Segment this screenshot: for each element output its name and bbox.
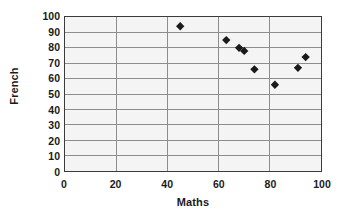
y-tick-label: 20 bbox=[26, 136, 60, 147]
x-tick-label: 60 bbox=[199, 179, 239, 190]
x-axis-title: Maths bbox=[64, 196, 322, 208]
y-tick-label: 70 bbox=[26, 58, 60, 69]
scatter-chart: French 0102030405060708090100 0204060801… bbox=[0, 0, 345, 220]
y-tick-label: 50 bbox=[26, 89, 60, 100]
y-tick-label: 100 bbox=[26, 11, 60, 22]
y-tick-label: 0 bbox=[26, 167, 60, 178]
y-tick-label: 80 bbox=[26, 42, 60, 53]
y-tick-label: 10 bbox=[26, 151, 60, 162]
x-axis-tick-labels: 020406080100 bbox=[64, 179, 322, 195]
x-tick-label: 80 bbox=[250, 179, 290, 190]
y-tick-label: 60 bbox=[26, 73, 60, 84]
y-axis-title-label: French bbox=[8, 67, 20, 104]
plot-area bbox=[64, 16, 322, 172]
x-tick-label: 20 bbox=[96, 179, 136, 190]
plot-inner bbox=[65, 17, 321, 171]
data-point bbox=[222, 36, 230, 44]
x-tick-label: 0 bbox=[44, 179, 84, 190]
y-tick-label: 40 bbox=[26, 104, 60, 115]
data-point bbox=[301, 53, 309, 61]
data-point bbox=[176, 22, 184, 30]
data-point bbox=[271, 81, 279, 89]
gridlines bbox=[65, 17, 321, 171]
data-point bbox=[250, 65, 258, 73]
y-tick-label: 30 bbox=[26, 120, 60, 131]
y-tick-label: 90 bbox=[26, 26, 60, 37]
x-tick-label: 100 bbox=[302, 179, 342, 190]
y-axis-title: French bbox=[2, 0, 26, 172]
data-point bbox=[294, 64, 302, 72]
x-tick-label: 40 bbox=[147, 179, 187, 190]
plot-svg bbox=[65, 17, 321, 171]
